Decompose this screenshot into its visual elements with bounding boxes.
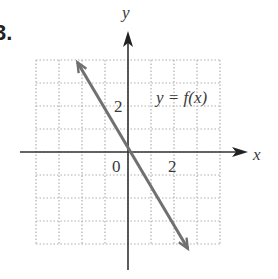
axes — [20, 31, 248, 270]
y-axis-label: y — [120, 3, 130, 22]
problem-number: 3. — [0, 20, 12, 45]
x-tick-label-2: 2 — [168, 157, 177, 176]
y-tick-label-2: 2 — [114, 97, 123, 116]
graph-figure: 3. y x 0 2 2 y = f(x) — [0, 0, 278, 279]
coordinate-plane: 3. y x 0 2 2 y = f(x) — [0, 0, 278, 279]
function-label: y = f(x) — [154, 88, 207, 107]
origin-label: 0 — [112, 157, 121, 176]
x-axis-label: x — [252, 145, 261, 164]
